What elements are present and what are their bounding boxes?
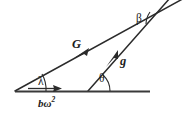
- label-centrifugal-base: bω: [38, 97, 51, 109]
- label-angle-beta: β: [136, 13, 142, 25]
- label-centrifugal-exponent: 2: [51, 95, 55, 104]
- label-gravitation-vector: G: [72, 38, 81, 51]
- vector-diagram-figure: G g λ θ β bω2: [0, 0, 186, 116]
- label-centrifugal-term: bω2: [38, 96, 55, 109]
- label-angle-theta: θ: [99, 73, 105, 85]
- diagram-canvas: [0, 0, 186, 116]
- label-gravity-vector: g: [120, 55, 126, 68]
- label-angle-lambda: λ: [38, 76, 44, 88]
